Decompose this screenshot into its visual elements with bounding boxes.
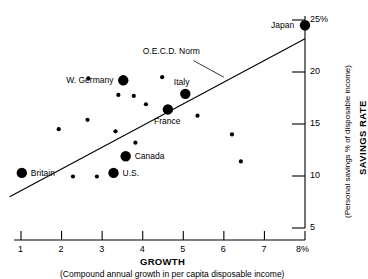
data-point xyxy=(71,174,75,178)
data-point-w-germany xyxy=(118,75,128,85)
data-point-canada xyxy=(120,151,130,161)
data-point-u-s xyxy=(108,168,118,178)
x-tick-label: 6 xyxy=(221,245,226,254)
x-tick-label: 1 xyxy=(18,245,23,254)
point-label-britain: Britain xyxy=(31,169,55,178)
trendline-callout-leader xyxy=(193,61,223,78)
y-tick-label: 25% xyxy=(310,15,328,24)
x-tick-label: 2 xyxy=(59,245,64,254)
data-point xyxy=(85,118,89,122)
point-label-u-s: U.S. xyxy=(123,169,140,178)
y-tick-label: 5 xyxy=(310,223,315,232)
data-point-britain xyxy=(17,168,27,178)
data-point xyxy=(195,114,199,118)
x-axis-subtitle: (Compound annual growth in per capita di… xyxy=(60,270,284,279)
x-tick-label: 5 xyxy=(180,245,185,254)
point-label-italy: Italy xyxy=(174,78,190,87)
x-tick-label: 3 xyxy=(99,245,104,254)
y-tick-label: 15 xyxy=(310,119,320,128)
x-tick-label: 7 xyxy=(261,245,266,254)
data-point xyxy=(116,93,120,97)
x-axis-title: GROWTH xyxy=(140,257,185,267)
data-point xyxy=(95,174,99,178)
y-axis-subtitle: (Personal savings % of disposable income… xyxy=(343,65,352,218)
point-label-japan: Japan xyxy=(271,21,294,30)
data-point xyxy=(132,94,136,98)
y-tick-label: 20 xyxy=(310,67,320,76)
y-axis-title: SAVINGS RATE xyxy=(357,100,368,175)
y-axis-ticks xyxy=(292,20,305,228)
x-tick-label: 8% xyxy=(296,245,309,254)
data-point xyxy=(133,141,137,145)
point-label-w-germany: W. Germany xyxy=(66,76,113,85)
data-point xyxy=(230,132,234,136)
oecd-norm-label: O.E.C.D. Norm xyxy=(143,47,200,56)
data-point xyxy=(144,102,148,106)
x-tick-label: 4 xyxy=(140,245,145,254)
data-point-italy xyxy=(180,89,190,99)
data-point xyxy=(113,129,117,133)
x-axis-ticks xyxy=(21,231,305,240)
data-point-japan xyxy=(300,20,310,30)
data-point xyxy=(160,75,164,79)
data-point xyxy=(239,159,243,163)
data-point-france xyxy=(163,104,173,114)
point-label-canada: Canada xyxy=(135,152,165,161)
y-tick-label: 10 xyxy=(310,171,320,180)
data-point xyxy=(57,127,61,131)
point-label-france: France xyxy=(154,117,180,126)
